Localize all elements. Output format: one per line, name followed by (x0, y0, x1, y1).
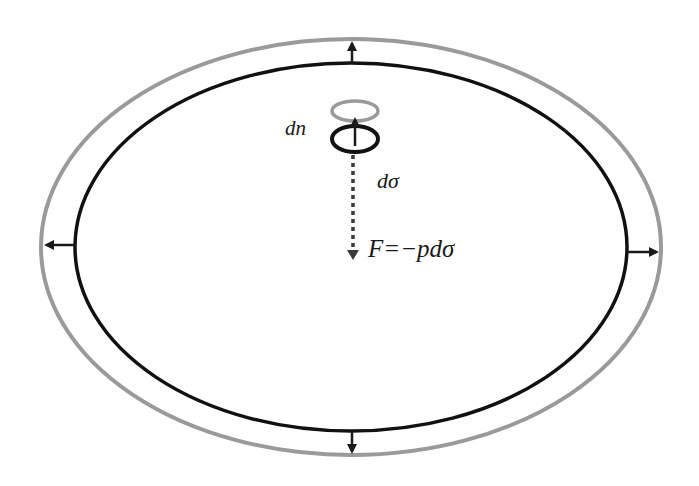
area-element-label: dσ (377, 168, 400, 193)
inner-surface-ellipse (75, 63, 627, 431)
force-label: F=−pdσ (367, 235, 456, 262)
displaced-area-element (332, 101, 378, 121)
displacement-label: dn (285, 116, 306, 140)
pressure-surface-diagram: dn dσ F=−pdσ (0, 0, 699, 486)
expansion-arrows (47, 44, 656, 451)
